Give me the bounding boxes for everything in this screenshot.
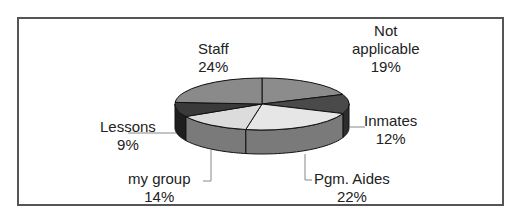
pie-slice-staff <box>175 78 262 104</box>
label-staff-name: Staff <box>198 40 229 58</box>
label-my-group-name: my group <box>128 170 191 188</box>
label-pgm-aides: Pgm. Aides 22% <box>314 170 390 206</box>
label-not-applicable: Not applicable 19% <box>352 22 420 76</box>
label-my-group-pct: 14% <box>128 188 191 206</box>
label-inmates-name: Inmates <box>364 112 417 130</box>
label-lessons: Lessons 9% <box>100 118 156 154</box>
label-lessons-pct: 9% <box>100 136 156 154</box>
label-not-applicable-line2: applicable <box>352 40 420 58</box>
label-not-applicable-pct: 19% <box>352 58 420 76</box>
label-inmates: Inmates 12% <box>364 112 417 148</box>
label-my-group: my group 14% <box>128 170 191 206</box>
pie-chart <box>0 0 521 221</box>
label-pgm-aides-name: Pgm. Aides <box>314 170 390 188</box>
label-not-applicable-line1: Not <box>352 22 420 40</box>
label-staff-pct: 24% <box>198 58 229 76</box>
label-lessons-name: Lessons <box>100 118 156 136</box>
leader-line-pgm-aides <box>305 154 312 180</box>
label-inmates-pct: 12% <box>364 130 417 148</box>
label-staff: Staff 24% <box>198 40 229 76</box>
leader-line-my-group <box>203 150 211 181</box>
label-pgm-aides-pct: 22% <box>314 188 390 206</box>
